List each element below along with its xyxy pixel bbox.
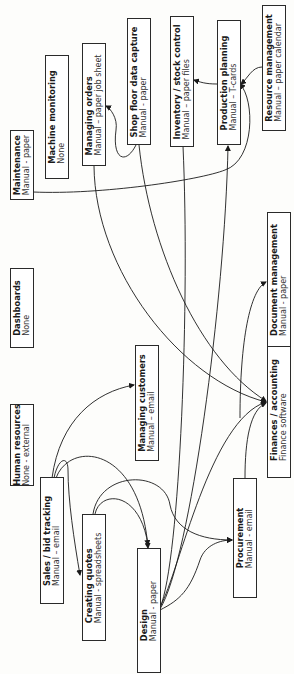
node-title: Managing customers: [137, 354, 147, 452]
node-subtitle: None: [22, 280, 32, 336]
edge-quotes-to-procurement: [93, 480, 232, 540]
node-subtitle: Manual - spreadsheets: [94, 532, 104, 623]
node-title: Inventory / stock control: [172, 24, 182, 139]
edge-design-to-planning: [160, 146, 228, 609]
node-production-planning: Production planning Manual – T-cards: [217, 20, 241, 145]
node-title: Resource management: [264, 14, 274, 122]
node-subtitle: Manual – T-cards: [229, 35, 239, 130]
node-inventory-stock-control: Inventory / stock control Manual – paper…: [170, 16, 194, 147]
node-subtitle: Manual - email: [245, 508, 255, 569]
node-subtitle: Manual – email: [52, 495, 62, 585]
node-subtitle: None - external: [22, 404, 32, 486]
edge-sales-to-customers: [52, 385, 134, 478]
node-subtitle: Manual - paper: [22, 135, 32, 195]
node-resource-management: Resource management Manual – paper calen…: [262, 5, 286, 131]
node-subtitle: Manual – email: [147, 354, 157, 452]
node-subtitle: Manual – paper files: [182, 24, 192, 139]
edge-design-to-procurement: [160, 540, 232, 610]
edge-planning-to-inventory: [194, 80, 217, 84]
node-design: Design Manual - paper: [137, 548, 161, 673]
edge-procurement-to-finance: [245, 403, 266, 478]
node-creating-quotes: Creating quotes Manual - spreadsheets: [82, 514, 106, 641]
node-subtitle: Manual – paper calendar: [274, 14, 284, 122]
node-title: Shop floor data capture: [129, 26, 139, 137]
node-subtitle: Finance software: [279, 359, 289, 461]
node-subtitle: None: [57, 70, 67, 164]
edge-orders-to-finance: [94, 166, 266, 402]
node-title: Maintenance: [12, 135, 22, 195]
edge-finance-to-docs: [240, 282, 266, 418]
node-human-resources: Human resources None - external: [10, 404, 34, 486]
node-machine-monitoring: Machine monitoring None: [45, 55, 69, 179]
node-title: Finances / accounting: [269, 359, 279, 461]
node-title: Machine monitoring: [47, 70, 57, 164]
node-title: Human resources: [12, 404, 22, 486]
node-maintenance: Maintenance Manual - paper: [10, 130, 34, 200]
process-diagram: Human resources None - external Sales / …: [0, 0, 294, 674]
node-managing-customers: Managing customers Manual – email: [135, 345, 159, 461]
node-title: Sales / bid tracking: [42, 495, 52, 585]
edge-design-to-inventory: [160, 146, 185, 608]
node-title: Dashboards: [12, 280, 22, 336]
node-subtitle: Manual - paper: [139, 26, 149, 137]
node-title: Procurement: [235, 508, 245, 569]
node-title: Design: [139, 580, 149, 640]
node-procurement: Procurement Manual - email: [233, 478, 257, 598]
node-sales-bid-tracking: Sales / bid tracking Manual – email: [40, 477, 64, 604]
node-title: Managing orders: [84, 54, 94, 155]
node-title: Document management: [269, 224, 279, 336]
node-finances-accounting: Finances / accounting Finance software: [267, 341, 291, 478]
node-subtitle: Manual - paper: [279, 224, 289, 336]
node-title: Production planning: [219, 35, 229, 130]
node-dashboards: Dashboards None: [10, 268, 34, 348]
edge-resource-to-planning: [241, 67, 262, 84]
node-subtitle: Manual - paper: [149, 580, 159, 640]
node-managing-orders: Managing orders Manual – paper job sheet: [82, 43, 106, 166]
node-shop-floor-data-capture: Shop floor data capture Manual - paper: [127, 18, 151, 145]
node-subtitle: Manual – paper job sheet: [94, 54, 104, 155]
node-document-management: Document management Manual - paper: [267, 212, 291, 347]
node-title: Creating quotes: [84, 532, 94, 623]
